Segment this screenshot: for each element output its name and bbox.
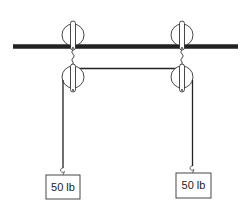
weight-right: 50 lb xyxy=(176,173,211,198)
weight-hook-right xyxy=(190,166,194,173)
weight-left: 50 lb xyxy=(46,175,80,199)
pulley-diagram: 50 lb 50 lb xyxy=(0,0,249,213)
hook-right xyxy=(181,50,184,65)
weight-hook-left xyxy=(61,168,65,175)
weight-right-label: 50 lb xyxy=(182,179,206,191)
hook-left xyxy=(72,50,75,65)
weight-left-label: 50 lb xyxy=(51,181,75,193)
